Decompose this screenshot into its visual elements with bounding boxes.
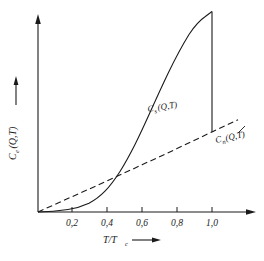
x-axis-title: T/T c — [103, 234, 128, 247]
y-title-arrowhead — [14, 76, 19, 85]
y-axis-title-tail: (Q,T) — [7, 126, 19, 149]
x-axis-arrowhead — [246, 209, 256, 215]
y-axis-title-sub: e — [13, 150, 20, 153]
curve-label-cs: C s (Q,T) — [147, 99, 178, 115]
y-axis-title-main: C — [7, 153, 18, 160]
curve-cn-dashed — [38, 120, 238, 212]
curve-cs-solid — [38, 12, 212, 213]
plot-canvas: 0,2 0,4 0,6 0,8 1,0 T/T c C e (Q,T) C s … — [0, 0, 264, 261]
curve-label-cn-tail: (Q,T) — [224, 129, 245, 143]
x-tick-label-0.4: 0,4 — [101, 218, 113, 228]
x-axis-title-main: T/T — [103, 234, 118, 245]
y-axis-title: C e (Q,T) — [7, 126, 20, 160]
x-tick-label-1.0: 1,0 — [206, 218, 218, 228]
x-tick-label-0.6: 0,6 — [136, 218, 148, 228]
x-tick-label-0.2: 0,2 — [66, 218, 78, 228]
specific-heat-figure: 0,2 0,4 0,6 0,8 1,0 T/T c C e (Q,T) C s … — [0, 0, 264, 261]
curve-label-cs-tail: (Q,T) — [157, 99, 178, 112]
y-axis-arrowhead — [35, 14, 41, 24]
curve-label-cn: C n (Q,T) — [214, 129, 246, 147]
x-title-arrowhead — [152, 238, 161, 243]
x-tick-label-0.8: 0,8 — [171, 218, 183, 228]
x-axis-title-sub: c — [125, 240, 128, 247]
